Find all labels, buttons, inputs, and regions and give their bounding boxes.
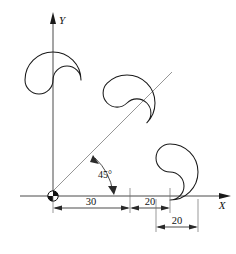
technical-diagram: Y X (0, 0, 236, 254)
angle-indicator-45: 45° (90, 155, 117, 195)
dimension-30: 30 (53, 188, 130, 213)
dimension-label-20-lower: 20 (172, 215, 183, 226)
cam-shape-right (156, 144, 198, 200)
cam-shape-middle (97, 63, 166, 132)
angle-label: 45° (98, 169, 112, 180)
diagram-root: Y X (0, 0, 236, 254)
dimension-20-lower: 20 (156, 199, 198, 232)
x-axis-label: X (218, 199, 227, 211)
dimension-label-30: 30 (86, 196, 97, 207)
y-axis: Y (50, 12, 67, 196)
dimension-label-20-upper: 20 (145, 196, 156, 207)
dimension-20-upper: 20 (130, 188, 170, 213)
y-axis-label: Y (59, 14, 67, 26)
